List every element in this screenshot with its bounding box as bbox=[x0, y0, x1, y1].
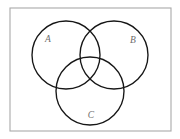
set-label-a: A bbox=[44, 34, 51, 44]
venn-diagram-canvas: A B C bbox=[0, 0, 180, 139]
set-label-b: B bbox=[130, 35, 136, 45]
venn-diagram-figure: A B C bbox=[0, 0, 180, 139]
set-label-c: C bbox=[88, 110, 95, 120]
